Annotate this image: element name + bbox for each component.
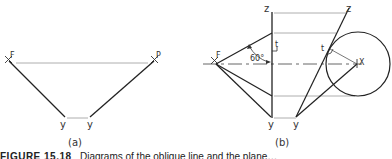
- caption-text: Diagrams of the oblique line and the pla…: [80, 151, 277, 159]
- label-a-f: F: [10, 51, 15, 60]
- label-b-z-left: z: [264, 3, 269, 14]
- label-b-y-left: y: [268, 119, 274, 130]
- arc-arrowhead-2-icon: [266, 60, 271, 64]
- caption-number: FIGURE 15.18: [0, 151, 72, 159]
- label-a-p: P: [156, 51, 161, 60]
- figure-caption: FIGURE 15.18 Diagrams of the oblique lin…: [0, 150, 392, 159]
- label-b-y-right: y: [293, 119, 299, 130]
- label-b-angle: 60°: [250, 54, 264, 63]
- labels: F P y y (a) z z F 60° t t X y y (b): [10, 3, 365, 148]
- panel-a-label: (a): [68, 137, 82, 148]
- panel-a: [5, 56, 158, 118]
- label-b-t-right: t: [321, 44, 324, 53]
- label-b-t-left: t: [275, 40, 278, 49]
- line-f-y: [9, 61, 65, 117]
- line-p-y: [90, 61, 154, 117]
- label-a-y-right: y: [87, 119, 93, 130]
- panel-b-label: (b): [275, 137, 289, 148]
- label-b-x: X: [359, 58, 365, 67]
- label-b-f: F: [216, 51, 221, 60]
- label-a-y-left: y: [60, 119, 66, 130]
- line-z-y-oblique: [296, 8, 349, 117]
- line-t-x: [330, 49, 357, 64]
- label-b-z-right: z: [346, 3, 351, 14]
- diagram-canvas: F P y y (a) z z F 60° t t X y y (b): [0, 0, 392, 159]
